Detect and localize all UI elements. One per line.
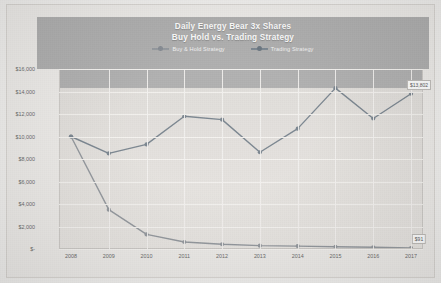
legend-swatch-trading: [251, 48, 268, 50]
gridline-horizontal: [59, 182, 423, 183]
gridline-vertical: [298, 69, 299, 249]
y-axis-tick-label: $2,000: [5, 224, 35, 230]
x-axis-tick-label: 2014: [283, 253, 313, 259]
x-axis-tick-label: 2013: [245, 253, 275, 259]
gridline-horizontal: [59, 249, 423, 250]
x-axis-tick-label: 2015: [320, 253, 350, 259]
gridline-vertical: [147, 69, 148, 249]
legend-item-buy-hold[interactable]: Buy & Hold Strategy: [152, 46, 224, 52]
x-axis-tick-label: 2011: [169, 253, 199, 259]
data-label-trading: $13,802: [407, 80, 431, 90]
gridline-vertical: [109, 69, 110, 249]
legend-swatch-buy-hold: [152, 48, 169, 50]
gridline-vertical: [184, 69, 185, 249]
gridline-horizontal: [59, 92, 423, 93]
y-axis-tick-label: $-: [5, 246, 35, 252]
y-axis-tick-label: $12,000: [5, 111, 35, 117]
chart-container: Daily Energy Bear 3x Shares Buy Hold vs.…: [6, 4, 435, 278]
chart-title: Daily Energy Bear 3x Shares: [37, 22, 429, 31]
plot-area: [59, 69, 423, 249]
gridline-vertical: [373, 69, 374, 249]
data-label-buy-hold: $91: [412, 234, 426, 244]
legend-label-trading: Trading Strategy: [271, 46, 314, 52]
y-axis-tick-label: $10,000: [5, 134, 35, 140]
x-axis-tick-label: 2010: [132, 253, 162, 259]
gridline-horizontal: [59, 69, 423, 70]
y-axis-tick-label: $6,000: [5, 179, 35, 185]
y-axis-tick-label: $8,000: [5, 156, 35, 162]
gridline-vertical: [411, 69, 412, 249]
gridline-horizontal: [59, 159, 423, 160]
x-axis-tick-label: 2009: [94, 253, 124, 259]
gridline-vertical: [222, 69, 223, 249]
gridline-horizontal: [59, 137, 423, 138]
y-axis: $-$2,000$4,000$6,000$8,000$10,000$12,000…: [3, 69, 35, 249]
chart-legend: Buy & Hold Strategy Trading Strategy: [37, 46, 429, 52]
x-axis-tick-label: 2008: [56, 253, 86, 259]
gridline-vertical: [260, 69, 261, 249]
x-axis: 2008200920102011201220132014201520162017: [59, 253, 423, 265]
series-line-buy-hold: [71, 137, 411, 248]
gridline-horizontal: [59, 114, 423, 115]
gridline-horizontal: [59, 204, 423, 205]
y-axis-tick-label: $16,000: [5, 66, 35, 72]
chart-panel: Daily Energy Bear 3x Shares Buy Hold vs.…: [37, 17, 429, 267]
legend-item-trading[interactable]: Trading Strategy: [251, 46, 314, 52]
x-axis-tick-label: 2017: [396, 253, 426, 259]
chart-subtitle: Buy Hold vs. Trading Strategy: [37, 33, 429, 42]
chart-title-block: Daily Energy Bear 3x Shares Buy Hold vs.…: [37, 17, 429, 69]
x-axis-tick-label: 2016: [358, 253, 388, 259]
gridline-horizontal: [59, 227, 423, 228]
y-axis-tick-label: $4,000: [5, 201, 35, 207]
y-axis-tick-label: $14,000: [5, 89, 35, 95]
gridline-vertical: [335, 69, 336, 249]
series-line-trading: [71, 88, 411, 153]
legend-label-buy-hold: Buy & Hold Strategy: [172, 46, 224, 52]
x-axis-tick-label: 2012: [207, 253, 237, 259]
